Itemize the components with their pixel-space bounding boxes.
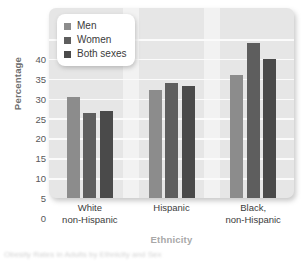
x-category-label: Black,non-Hispanic (212, 202, 294, 226)
legend-item: Women (64, 33, 126, 47)
x-axis-title: Ethnicity (49, 234, 294, 245)
x-category-label-line: non-Hispanic (49, 214, 131, 226)
y-tick-label: 25 (20, 113, 46, 124)
x-category-label-line: Hispanic (131, 202, 213, 214)
y-tick-label: 15 (20, 153, 46, 164)
legend-swatch-icon (64, 37, 71, 44)
legend-label: Women (77, 35, 111, 45)
y-tick-label: 30 (20, 93, 46, 104)
legend-label: Both sexes (77, 49, 126, 59)
bar (100, 111, 113, 198)
bar (263, 59, 276, 198)
legend-item: Men (64, 19, 126, 33)
bar (247, 43, 260, 198)
bar (230, 75, 243, 198)
x-axis-category-labels: Whitenon-HispanicHispanicBlack,non-Hispa… (49, 202, 294, 230)
x-category-label-line: Black, (212, 202, 294, 214)
y-tick-label: 10 (20, 173, 46, 184)
bar (165, 83, 178, 198)
chart-legend: MenWomenBoth sexes (57, 14, 135, 66)
figure-caption: Obesity Rates in Adults by Ethnicity and… (4, 250, 297, 261)
legend-swatch-icon (64, 23, 71, 30)
bar (149, 90, 162, 198)
y-tick-label: 20 (20, 133, 46, 144)
x-category-label: Hispanic (131, 202, 213, 214)
y-tick-label: 0 (20, 213, 46, 224)
bar (67, 97, 80, 198)
y-axis-tick-labels: 0510152025303540 (20, 28, 46, 200)
chart-figure: Percentage 0510152025303540 MenWomenBoth… (0, 0, 301, 262)
y-tick-label: 40 (20, 53, 46, 64)
legend-item: Both sexes (64, 47, 126, 61)
legend-swatch-icon (64, 51, 71, 58)
bar (182, 86, 195, 198)
x-category-label-line: non-Hispanic (212, 214, 294, 226)
x-category-label-line: White (49, 202, 131, 214)
bar (83, 113, 96, 198)
x-category-label: Whitenon-Hispanic (49, 202, 131, 226)
legend-label: Men (77, 21, 96, 31)
y-tick-label: 35 (20, 73, 46, 84)
y-tick-label: 5 (20, 193, 46, 204)
